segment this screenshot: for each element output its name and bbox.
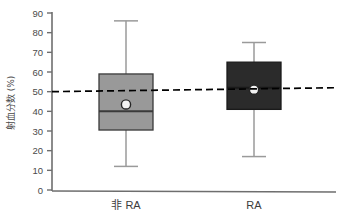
mean-marker (121, 100, 130, 109)
chart-figure: 0102030405060708090 射血分数 (%) 非 RARA (0, 0, 337, 218)
reference-line (52, 88, 336, 92)
y-axis-tick-label: 90 (32, 8, 43, 19)
y-axis-tick-label: 10 (32, 165, 43, 176)
y-axis-tick-label: 40 (32, 106, 43, 117)
x-axis-category-labels: 非 RARA (111, 199, 262, 211)
box-plot-group (99, 21, 153, 167)
y-axis-tick-label: 20 (32, 145, 43, 156)
box-plot-svg: 0102030405060708090 射血分数 (%) 非 RARA (0, 0, 337, 218)
y-axis-tick-label: 80 (32, 27, 43, 38)
y-axis-tick-label: 0 (38, 185, 43, 196)
y-axis-tick-label: 50 (32, 86, 43, 97)
box-plot-boxes (99, 21, 281, 167)
y-axis-tick-labels: 0102030405060708090 (32, 8, 43, 196)
box-plot-group (227, 43, 281, 157)
x-axis-category-label: RA (246, 199, 262, 211)
y-axis-tick-label: 70 (32, 47, 43, 58)
y-axis-title: 射血分数 (%) (5, 76, 16, 130)
y-axis-tick-label: 60 (32, 67, 43, 78)
y-axis-tick-label: 30 (32, 126, 43, 137)
x-axis-category-label: 非 RA (111, 199, 141, 211)
x-axis-line (52, 191, 336, 192)
